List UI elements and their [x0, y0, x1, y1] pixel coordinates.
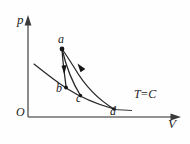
- pv-diagram-figure: p V O a b c d T=C: [0, 0, 190, 144]
- isotherm-curve-group: [34, 64, 132, 111]
- state-point-b-dot: [64, 86, 68, 90]
- pv-diagram-canvas: [0, 0, 190, 144]
- isotherm-curve-path: [34, 64, 114, 109]
- axes-group: [25, 15, 181, 120]
- state-label-c: c: [76, 92, 81, 104]
- p-axis-arrow-icon: [25, 15, 32, 26]
- origin-label: O: [16, 106, 25, 118]
- state-label-b: b: [56, 82, 62, 94]
- state-point-a-dot: [60, 47, 65, 52]
- state-point-markers: [60, 47, 116, 111]
- state-label-a: a: [58, 33, 64, 45]
- v-axis-label: V: [168, 117, 176, 130]
- isotherm-tail-line: [114, 110, 132, 111]
- direction-arrow-a-to-b-icon: [62, 65, 67, 75]
- isotherm-label: T=C: [134, 88, 156, 100]
- p-axis-label: p: [17, 13, 24, 26]
- state-label-d: d: [110, 105, 116, 117]
- direction-arrow-c-to-a-icon: [78, 64, 86, 73]
